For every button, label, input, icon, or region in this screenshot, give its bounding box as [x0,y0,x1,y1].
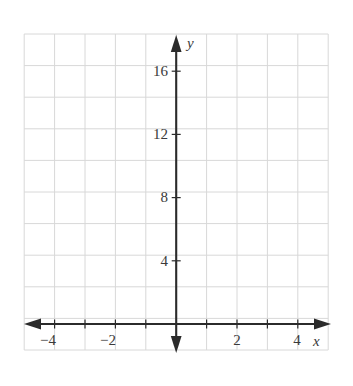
y-axis [171,35,182,353]
y-tick-label-12: 12 [138,127,168,142]
y-axis-name: y [187,36,194,51]
y-tick-label-8: 8 [138,190,168,205]
x-axis-arrow-left-icon [24,319,41,330]
graph-canvas [0,0,353,386]
x-axis [24,319,331,330]
coordinate-grid-figure: −4 −2 2 4 16 12 8 4 y x [0,0,353,386]
x-tick-label--4: −4 [33,333,63,348]
y-tick-label-4: 4 [138,254,168,269]
x-tick-label-2: 2 [222,333,252,348]
x-tick-label-4: 4 [282,333,312,348]
y-tick-label-16: 16 [138,64,168,79]
x-axis-name: x [313,334,320,349]
x-tick-label--2: −2 [93,333,123,348]
y-axis-arrow-up-icon [171,35,182,52]
